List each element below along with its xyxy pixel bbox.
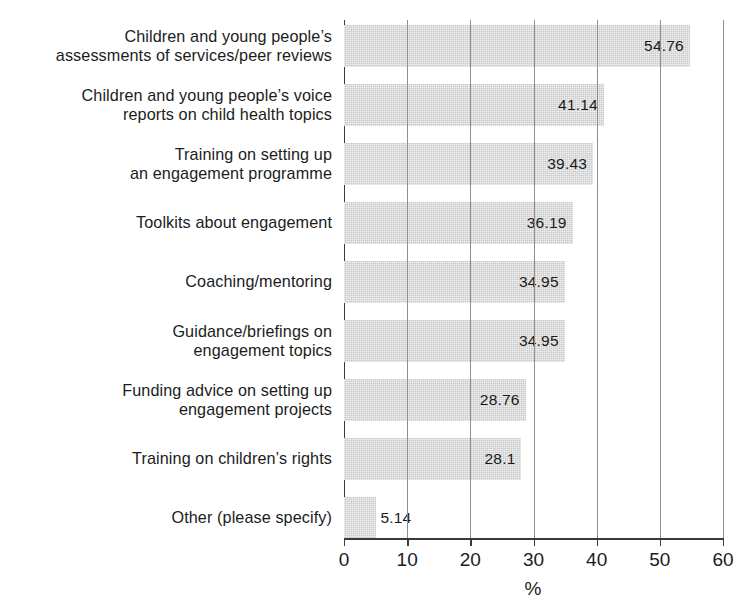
bar-value-label: 34.95 [519,273,559,291]
category-label-line: assessments of services/peer reviews [2,46,332,66]
category-label-line: Toolkits about engagement [2,213,332,233]
bar-value-label: 34.95 [519,332,559,350]
category-label-line: Funding advice on setting up [2,381,332,401]
x-axis-tick-label: 60 [712,549,733,571]
plot-area: 54.7641.1439.4336.1934.9534.9528.7628.15… [344,20,723,538]
category-label: Children and young people’s voicereports… [2,84,332,126]
category-label-line: Coaching/mentoring [2,272,332,292]
gridline [470,20,471,538]
bar: 39.43 [344,143,593,185]
x-axis-title: % [525,578,542,600]
bar-value-label: 28.1 [485,450,516,468]
category-label: Toolkits about engagement [2,202,332,244]
category-label-line: engagement topics [2,341,332,361]
bar: 28.1 [344,438,521,480]
category-label-line: Children and young people’s [2,27,332,47]
bar [344,497,376,539]
category-label-line: an engagement programme [2,164,332,184]
category-label: Training on children’s rights [2,438,332,480]
x-axis-tick [723,538,724,546]
x-axis-tick [470,538,471,546]
x-axis-tick [597,538,598,546]
category-label: Children and young people’sassessments o… [2,25,332,67]
bar-value-label: 28.76 [480,391,520,409]
x-axis-tick [344,538,345,546]
category-label: Other (please specify) [2,497,332,539]
x-axis-tick-label: 20 [460,549,481,571]
gridline [597,20,598,538]
bar-value-label: 54.76 [644,37,684,55]
bar: 34.95 [344,320,565,362]
category-label-line: Children and young people’s voice [2,86,332,106]
category-label: Guidance/briefings onengagement topics [2,320,332,362]
gridline [660,20,661,538]
category-label-line: Other (please specify) [2,508,332,528]
x-axis-tick-label: 30 [523,549,544,571]
category-label: Funding advice on setting upengagement p… [2,379,332,421]
x-axis-tick-label: 40 [586,549,607,571]
gridline [534,20,535,538]
bar: 54.76 [344,25,690,67]
category-label: Training on setting upan engagement prog… [2,143,332,185]
bar: 36.19 [344,202,573,244]
x-axis-tick [660,538,661,546]
category-label-line: engagement projects [2,400,332,420]
gridline [723,20,724,538]
category-axis-labels: Children and young people’sassessments o… [0,0,338,538]
x-axis-tick-label: 10 [397,549,418,571]
x-axis-tick-label: 50 [649,549,670,571]
category-label-line: Guidance/briefings on [2,322,332,342]
x-axis-tick [407,538,408,546]
bar-chart: Children and young people’sassessments o… [0,0,743,608]
bar: 34.95 [344,261,565,303]
x-axis-tick-label: 0 [339,549,350,571]
category-label-line: reports on child health topics [2,105,332,125]
category-label-line: Training on setting up [2,145,332,165]
category-label: Coaching/mentoring [2,261,332,303]
x-axis-tick [534,538,535,546]
bar-value-label: 41.14 [558,96,598,114]
category-label-line: Training on children’s rights [2,449,332,469]
bar-value-label: 39.43 [547,155,587,173]
bar: 28.76 [344,379,526,421]
bar: 41.14 [344,84,604,126]
gridline [407,20,408,538]
